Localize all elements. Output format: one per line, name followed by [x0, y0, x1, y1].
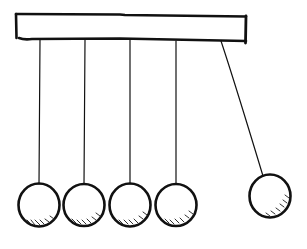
ball-1 [19, 184, 60, 227]
string-1 [39, 40, 40, 184]
top-bar [16, 14, 246, 43]
ball-4 [156, 184, 197, 226]
ball-5-raised [250, 175, 291, 218]
ball-3 [110, 184, 151, 227]
newtons-cradle-drawing: Newton's cradle sketch [0, 0, 307, 249]
string-5-raised [221, 41, 263, 176]
ball-2 [64, 184, 105, 226]
strings [39, 40, 263, 184]
string-2 [84, 40, 85, 184]
cradle-svg [0, 0, 307, 249]
